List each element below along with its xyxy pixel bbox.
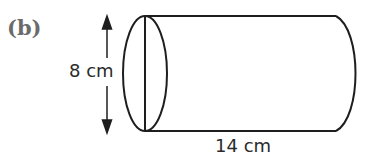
length-label: 14 cm	[215, 135, 271, 156]
diameter-label: 8 cm	[68, 60, 115, 81]
cylinder-diagram	[0, 0, 367, 159]
figure-label: (b)	[7, 15, 42, 40]
cylinder-right-cap	[336, 16, 356, 131]
